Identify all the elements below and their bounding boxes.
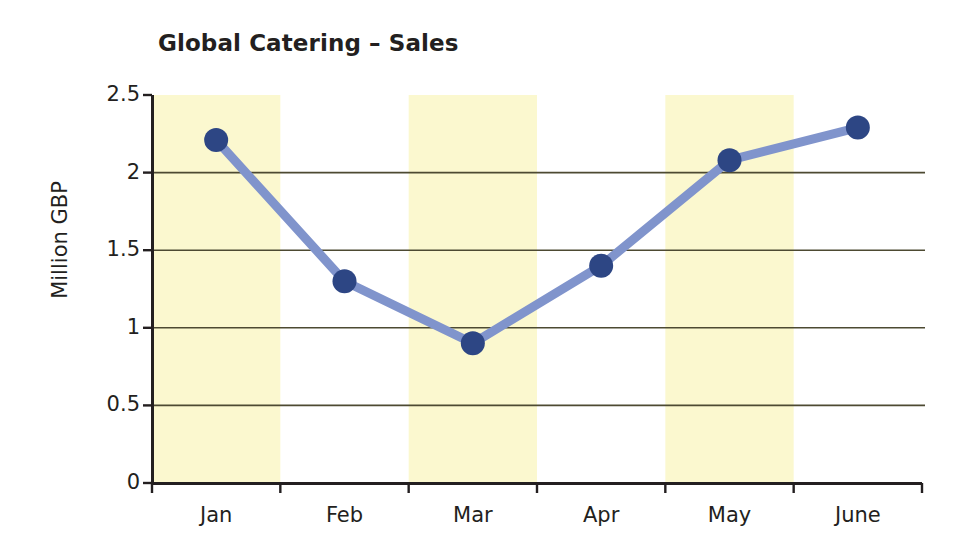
x-tick-label: Feb	[326, 505, 363, 526]
x-tick-label: Apr	[583, 505, 619, 526]
x-axis-tick-labels: JanFebMarAprMayJune	[0, 0, 963, 554]
x-tick-label: June	[835, 505, 881, 526]
x-tick-label: Jan	[200, 505, 232, 526]
x-tick-label: May	[708, 505, 751, 526]
x-tick-label: Mar	[453, 505, 493, 526]
chart-container: Global Catering – Sales Million GBP 00.5…	[0, 0, 963, 554]
